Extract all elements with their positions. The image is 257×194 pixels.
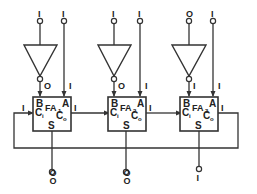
- co-value: I: [221, 103, 224, 113]
- a-input-value: I: [211, 9, 214, 19]
- stage-1: I O I I B A C i FA 1 C o S I I O: [22, 9, 77, 186]
- a-value: I: [218, 81, 221, 91]
- port-a-label: A: [209, 98, 216, 109]
- port-s-label: S: [123, 120, 130, 131]
- port-s-label: S: [195, 120, 202, 131]
- port-a-label: A: [62, 98, 69, 109]
- input-terminal: [137, 18, 142, 23]
- input-terminal: [111, 18, 116, 23]
- inverter-bubble: [37, 76, 42, 81]
- svg-text:o: o: [210, 116, 214, 122]
- co-value: I: [74, 103, 77, 113]
- a-input-value: I: [138, 9, 141, 19]
- input-terminal: [186, 18, 191, 23]
- b-value: O: [118, 81, 125, 91]
- sum-value: O: [124, 168, 131, 178]
- inverter-input-value: O: [186, 9, 193, 19]
- stage-3: O I I I B A C i FA 3 C o S I I: [172, 9, 224, 183]
- a-input-value: I: [62, 9, 65, 19]
- port-a-label: A: [137, 98, 144, 109]
- input-terminal: [37, 18, 42, 23]
- inverter-bubble: [111, 76, 116, 81]
- inverter-icon: [172, 45, 206, 76]
- sum-value: I: [197, 173, 200, 183]
- inverter-icon: [98, 45, 131, 76]
- svg-text:o: o: [138, 116, 142, 122]
- svg-text:o: o: [63, 116, 67, 122]
- ci-value: I: [22, 103, 25, 113]
- inverter-input-value: I: [112, 9, 115, 19]
- a-value: I: [69, 81, 72, 91]
- b-value: I: [193, 81, 196, 91]
- input-terminal: [210, 18, 215, 23]
- stage-2: I O I I B A C i FA 2 C o S I O: [98, 9, 152, 186]
- input-terminal: [61, 18, 66, 23]
- inverter-icon: [24, 45, 57, 76]
- inverter-input-value: I: [38, 9, 41, 19]
- co-value: I: [149, 103, 152, 113]
- sum-output-terminal: [196, 166, 201, 171]
- full-adder-diagram: I O I I B A C i FA 1 C o S I I O I: [0, 0, 257, 194]
- b-value: O: [44, 81, 51, 91]
- a-value: I: [145, 81, 148, 91]
- sum-value: O: [50, 168, 57, 178]
- inverter-bubble: [186, 76, 191, 81]
- port-s-label: S: [48, 120, 55, 131]
